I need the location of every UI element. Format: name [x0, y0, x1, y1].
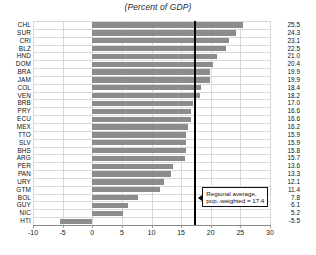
x-tick-mark — [211, 225, 212, 228]
bar — [92, 195, 138, 200]
bar — [92, 164, 173, 169]
bar — [92, 117, 190, 122]
x-tick-label: -10 — [18, 229, 48, 236]
regional-average-annotation: Regional average,pop.-weighted = 17.4 — [202, 187, 268, 207]
bar — [92, 54, 216, 59]
category-axis-labels: CHLSURCRIBLZHNDDOMBRAJAMCOLVENBRBPRYECUM… — [0, 21, 31, 225]
x-tick-label: -5 — [48, 229, 78, 236]
bar — [92, 30, 236, 35]
row-rule — [33, 209, 270, 210]
bar — [92, 171, 171, 176]
bar — [92, 124, 188, 129]
x-tick-mark — [92, 225, 93, 228]
x-tick-label: 20 — [196, 229, 226, 236]
annotation-line-2: pop.-weighted = 17.4 — [206, 197, 264, 204]
gridline — [270, 21, 271, 225]
chart-title: (Percent of GDP) — [0, 2, 316, 12]
bar — [92, 179, 164, 184]
annotation-arrow-icon — [198, 195, 202, 201]
bar — [92, 156, 185, 161]
regional-average-line — [194, 21, 196, 225]
x-tick-label: 0 — [77, 229, 107, 236]
bar — [60, 219, 93, 224]
x-tick-label: 30 — [255, 229, 285, 236]
x-tick-mark — [181, 225, 182, 228]
bar — [92, 140, 186, 145]
bar — [92, 148, 186, 153]
chart-container: (Percent of GDP) CHLSURCRIBLZHNDDOMBRAJA… — [0, 0, 316, 255]
x-tick-label: 5 — [107, 229, 137, 236]
bar — [92, 77, 210, 82]
x-tick-mark — [270, 225, 271, 228]
bar — [92, 187, 160, 192]
bar — [92, 93, 200, 98]
x-tick-mark — [152, 225, 153, 228]
bar — [92, 38, 229, 43]
category-label: HTI — [0, 217, 31, 225]
bar — [92, 22, 243, 27]
x-tick-mark — [122, 225, 123, 228]
x-tick-label: 25 — [225, 229, 255, 236]
bar — [92, 69, 210, 74]
x-tick-label: 15 — [166, 229, 196, 236]
value-label: -5.5 — [272, 217, 300, 225]
x-axis: -10-5051015202530 — [33, 225, 270, 245]
x-tick-label: 10 — [137, 229, 167, 236]
bar — [92, 211, 123, 216]
value-labels: 25.524.323.122.521.020.419.919.918.418.2… — [272, 21, 316, 225]
bar — [92, 203, 128, 208]
annotation-line-1: Regional average, — [206, 190, 264, 197]
bar — [92, 109, 190, 114]
x-tick-mark — [240, 225, 241, 228]
x-tick-mark — [63, 225, 64, 228]
bar — [92, 46, 225, 51]
bar — [92, 85, 201, 90]
x-tick-mark — [33, 225, 34, 228]
bar — [92, 132, 186, 137]
bar — [92, 101, 193, 106]
